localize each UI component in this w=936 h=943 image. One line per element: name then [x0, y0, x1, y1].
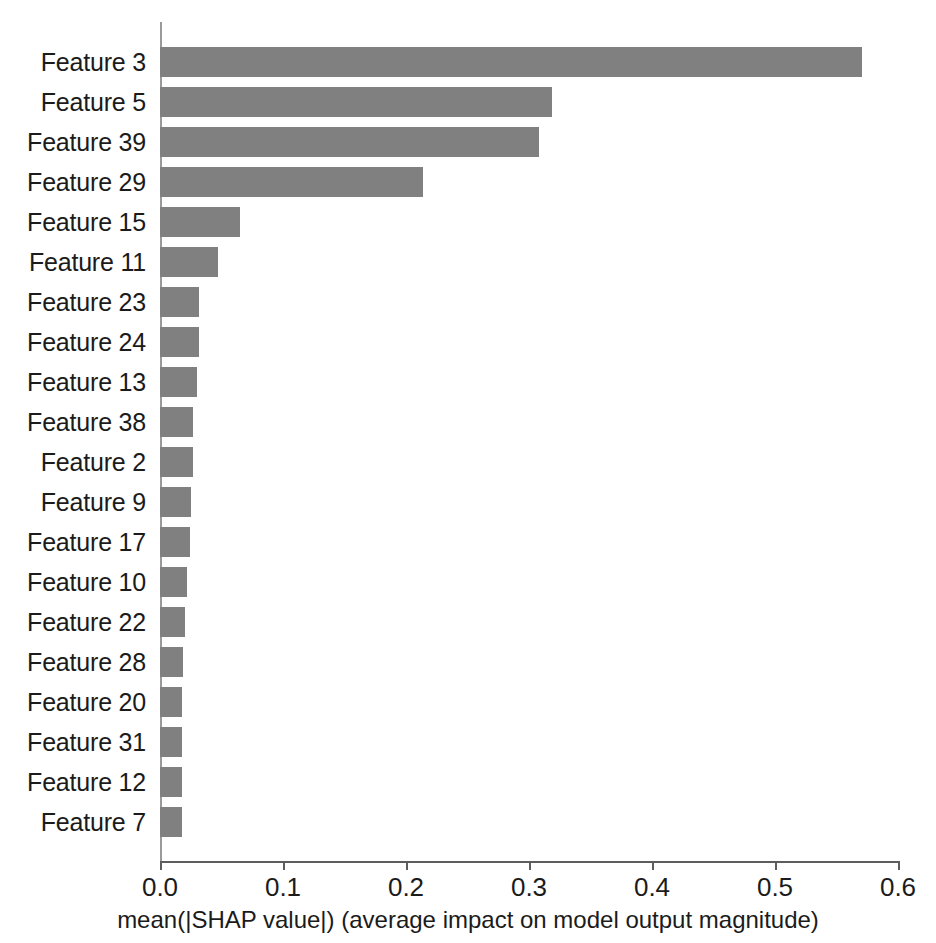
bar[interactable] [160, 607, 185, 637]
y-axis-tick-label: Feature 31 [27, 722, 146, 762]
x-axis-tick-label: 0.5 [757, 872, 793, 903]
bar[interactable] [160, 127, 539, 157]
x-axis-title: mean(|SHAP value|) (average impact on mo… [0, 906, 936, 934]
bar-row: Feature 11 [160, 242, 898, 282]
y-axis-tick-label: Feature 11 [29, 242, 146, 282]
y-axis-tick-label: Feature 28 [27, 642, 146, 682]
y-axis-tick-label: Feature 17 [27, 522, 146, 562]
x-axis-tick-label: 0.0 [142, 872, 178, 903]
bar-row: Feature 22 [160, 602, 898, 642]
bar[interactable] [160, 407, 193, 437]
y-axis-tick-label: Feature 5 [41, 82, 146, 122]
bar[interactable] [160, 527, 190, 557]
bar-row: Feature 3 [160, 42, 898, 82]
x-axis-tick-label: 0.1 [265, 872, 301, 903]
bar[interactable] [160, 567, 187, 597]
bar-row: Feature 9 [160, 482, 898, 522]
bar-row: Feature 31 [160, 722, 898, 762]
y-axis-tick-label: Feature 7 [41, 802, 146, 842]
bar-row: Feature 2 [160, 442, 898, 482]
x-axis-tick-mark [406, 861, 408, 870]
y-axis-tick-label: Feature 24 [27, 322, 146, 362]
bar[interactable] [160, 327, 199, 357]
y-axis-tick-label: Feature 15 [27, 202, 146, 242]
bar[interactable] [160, 807, 182, 837]
x-axis-tick-mark [775, 861, 777, 870]
bar[interactable] [160, 287, 199, 317]
shap-feature-importance-chart: Feature 3Feature 5Feature 39Feature 29Fe… [0, 0, 936, 943]
bar[interactable] [160, 47, 862, 77]
x-axis-tick-label: 0.3 [511, 872, 547, 903]
bar[interactable] [160, 167, 423, 197]
bar-row: Feature 5 [160, 82, 898, 122]
bar[interactable] [160, 767, 182, 797]
bar[interactable] [160, 247, 218, 277]
bar-row: Feature 24 [160, 322, 898, 362]
y-axis-tick-label: Feature 3 [41, 42, 146, 82]
y-axis-tick-label: Feature 10 [27, 562, 146, 602]
x-axis-tick-label: 0.4 [634, 872, 670, 903]
bar[interactable] [160, 727, 182, 757]
x-axis-tick-mark [898, 861, 900, 870]
y-axis-tick-label: Feature 9 [41, 482, 146, 522]
bar-row: Feature 20 [160, 682, 898, 722]
y-axis-tick-label: Feature 12 [27, 762, 146, 802]
bar-row: Feature 13 [160, 362, 898, 402]
bar[interactable] [160, 487, 191, 517]
bar[interactable] [160, 447, 193, 477]
bar[interactable] [160, 647, 183, 677]
plot-area: Feature 3Feature 5Feature 39Feature 29Fe… [160, 22, 898, 862]
y-axis-tick-label: Feature 38 [27, 402, 146, 442]
y-axis-tick-label: Feature 29 [27, 162, 146, 202]
x-axis-tick-label: 0.2 [388, 872, 424, 903]
bar[interactable] [160, 687, 182, 717]
bar-row: Feature 28 [160, 642, 898, 682]
bar-row: Feature 39 [160, 122, 898, 162]
y-axis-tick-label: Feature 39 [27, 122, 146, 162]
x-axis-tick-mark [529, 861, 531, 870]
y-axis-tick-label: Feature 2 [41, 442, 146, 482]
bar-row: Feature 38 [160, 402, 898, 442]
y-axis-tick-label: Feature 22 [27, 602, 146, 642]
bar-row: Feature 12 [160, 762, 898, 802]
bar-row: Feature 15 [160, 202, 898, 242]
x-axis-tick-mark [652, 861, 654, 870]
bar-row: Feature 23 [160, 282, 898, 322]
y-axis-tick-label: Feature 23 [27, 282, 146, 322]
bar-row: Feature 10 [160, 562, 898, 602]
bar-row: Feature 7 [160, 802, 898, 842]
bar-row: Feature 17 [160, 522, 898, 562]
x-axis-tick-mark [283, 861, 285, 870]
y-axis-tick-label: Feature 20 [27, 682, 146, 722]
x-axis-tick-label: 0.6 [880, 872, 916, 903]
x-axis-tick-mark [160, 861, 162, 870]
bar[interactable] [160, 207, 240, 237]
bar[interactable] [160, 87, 552, 117]
bar[interactable] [160, 367, 197, 397]
y-axis-tick-label: Feature 13 [27, 362, 146, 402]
bar-row: Feature 29 [160, 162, 898, 202]
